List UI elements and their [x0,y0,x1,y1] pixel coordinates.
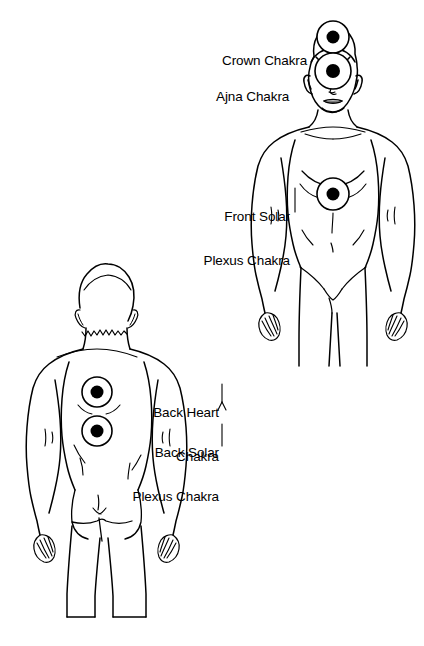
chakra-marker-front-solar-plexus [317,178,349,210]
label-back-solar-plexus-chakra: Back Solar Plexus Chakra [105,417,219,533]
label-front-solar-plexus-chakra-line-2: Plexus Chakra [180,254,290,269]
leader-back-heart-arrow-b [222,402,226,410]
label-back-solar-plexus-chakra-line-2: Plexus Chakra [105,490,219,505]
label-ajna-chakra-line-1: Ajna Chakra [216,90,289,105]
chakra-marker-back-heart [82,377,112,407]
label-front-solar-plexus-chakra: Front Solar Plexus Chakra [180,181,290,297]
chakra-diagram-illustration [0,0,424,646]
diagram-canvas: Crown Chakra Ajna Chakra Front Solar Ple… [0,0,424,646]
label-front-solar-plexus-chakra-line-1: Front Solar [180,210,290,225]
chakra-marker-crown [317,21,349,53]
chakra-marker-ajna [315,53,351,89]
label-ajna-chakra: Ajna Chakra [216,61,289,134]
label-back-solar-plexus-chakra-line-1: Back Solar [105,446,219,461]
